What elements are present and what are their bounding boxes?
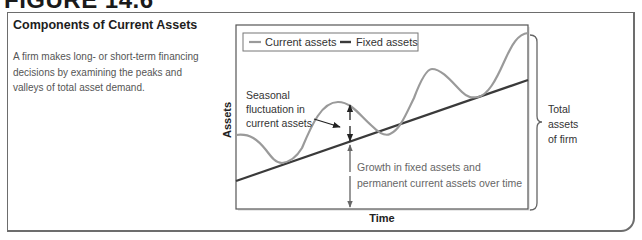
- total-assets-brace: Total assets of firm: [530, 35, 578, 210]
- assets-diagram: Current assets Fixed assets Assets Time …: [0, 0, 642, 240]
- svg-text:fluctuation in: fluctuation in: [246, 103, 305, 115]
- svg-text:permanent current assets over: permanent current assets over time: [357, 177, 522, 189]
- svg-text:Seasonal: Seasonal: [246, 89, 290, 101]
- svg-text:assets: assets: [548, 118, 578, 130]
- svg-text:Total: Total: [548, 103, 570, 115]
- legend-fixed-assets: Fixed assets: [356, 36, 418, 48]
- legend: Current assets Fixed assets: [243, 33, 418, 51]
- svg-text:current assets: current assets: [246, 117, 312, 129]
- legend-current-assets: Current assets: [265, 36, 337, 48]
- svg-text:of firm: of firm: [548, 133, 577, 145]
- y-axis-label: Assets: [221, 102, 233, 138]
- x-axis-label: Time: [369, 212, 394, 224]
- svg-text:Growth in fixed assets and: Growth in fixed assets and: [357, 161, 481, 173]
